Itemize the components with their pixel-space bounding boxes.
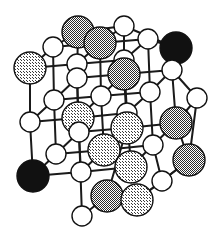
atom-light-gray-atom: [88, 134, 120, 166]
atom-white-atom: [44, 90, 64, 110]
atom-white-atom: [187, 88, 207, 108]
atom-black-atom: [160, 32, 192, 64]
atom-white-atom: [140, 82, 160, 102]
atom-dark-gray-atom: [91, 180, 123, 212]
atom-white-atom: [46, 144, 66, 164]
atom-light-gray-atom: [14, 52, 46, 84]
atom-light-gray-atom: [115, 151, 147, 183]
lattice-canvas: [0, 0, 217, 230]
atom-white-atom: [69, 122, 89, 142]
crystal-lattice-figure: [0, 0, 217, 230]
atom-light-gray-atom: [121, 184, 153, 216]
atom-white-atom: [20, 112, 40, 132]
atom-white-atom: [67, 68, 87, 88]
atom-dark-gray-atom: [108, 58, 140, 90]
atom-dark-gray-atom: [173, 144, 205, 176]
atom-black-atom: [17, 160, 49, 192]
atom-dark-gray-atom: [160, 107, 192, 139]
atom-white-atom: [71, 162, 91, 182]
atom-white-atom: [91, 86, 111, 106]
atom-white-atom: [43, 37, 63, 57]
atom-dark-gray-atom: [84, 27, 116, 59]
atom-white-atom: [152, 171, 172, 191]
atom-white-atom: [162, 60, 182, 80]
atom-white-atom: [72, 206, 92, 226]
atom-white-atom: [138, 29, 158, 49]
atom-white-atom: [114, 16, 134, 36]
atom-white-atom: [143, 135, 163, 155]
